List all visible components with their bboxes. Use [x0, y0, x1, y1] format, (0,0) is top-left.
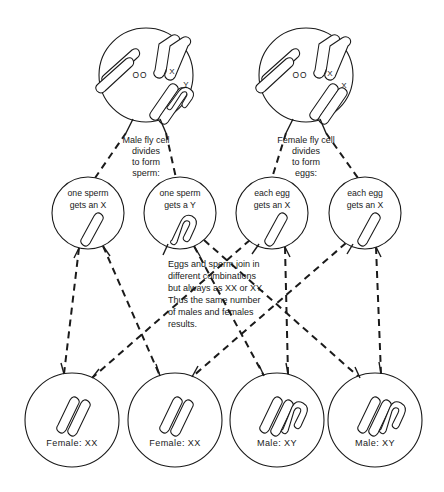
- explanation-line-2: different combinations: [168, 271, 256, 281]
- gamete-egg-x-2-line-2: gets an X: [347, 200, 384, 210]
- explanation-text-block: Eggs and sperm join in different combina…: [168, 259, 263, 329]
- gamete-sperm-y-line-2: gets a Y: [164, 200, 196, 210]
- female-stem-left: [286, 119, 293, 133]
- gamete-sperm-x-line-1: one sperm: [67, 188, 108, 198]
- offspring-cell-4[interactable]: Male: XY: [328, 362, 422, 467]
- offspring-4-label: Male: XY: [355, 438, 395, 448]
- explanation-line-3: but always as XX or XY.: [168, 283, 263, 293]
- gamete-egg-x-2-line-1: each egg: [347, 188, 383, 198]
- gamete-sperm-x-stem-right: [103, 246, 110, 256]
- female-x-mark-1: X: [327, 69, 333, 78]
- gamete-sperm-y-line-1: one sperm: [159, 188, 200, 198]
- offspring-2-label: Female: XX: [149, 438, 201, 448]
- gamete-egg-x-1-line-1: each egg: [254, 188, 290, 198]
- dashed-line-male-to-sperm-x: [95, 133, 126, 178]
- explanation-line-4: Thus the same number: [168, 295, 261, 305]
- male-autosome-label: OO: [132, 70, 147, 80]
- offspring-3-stem-left: [259, 365, 264, 376]
- male-stem-left: [126, 119, 133, 133]
- offspring-1-label: Female: XX: [46, 438, 98, 448]
- female-x-mark-2: X: [341, 81, 347, 90]
- female-autosome-label: OO: [292, 70, 307, 80]
- diagram-canvas: OO X Y Male fly cell divides to form spe…: [0, 0, 444, 492]
- explanation-line-5: of males and females: [168, 307, 254, 317]
- dashed-line-egg1-to-offspring-3: [285, 247, 288, 374]
- male-caption-line-4: sperm:: [132, 168, 160, 178]
- offspring-3-stem-right: [286, 363, 288, 374]
- male-caption-line-1: Male fly cell: [122, 135, 169, 145]
- gamete-cell-sperm-y[interactable]: one sperm gets a Y: [144, 177, 216, 256]
- dashed-line-egg2-to-offspring-4: [376, 247, 381, 374]
- offspring-1-stem-right: [92, 369, 99, 378]
- female-caption-line-1: Female fly cell: [277, 135, 335, 145]
- offspring-cell-3[interactable]: Male: XY: [230, 363, 324, 467]
- female-caption-line-4: eggs:: [295, 168, 317, 178]
- gamete-sperm-y-stem-right: [194, 246, 200, 256]
- gamete-cell-egg-x-2[interactable]: each egg gets an X: [329, 177, 401, 257]
- female-caption-line-3: to form: [292, 157, 320, 167]
- offspring-4-stem-right: [379, 362, 381, 374]
- offspring-cell-1[interactable]: Female: XX: [25, 363, 119, 467]
- offspring-cell-2[interactable]: Female: XX: [128, 364, 222, 467]
- male-y-mark: Y: [183, 80, 189, 89]
- male-caption-line-2: divides: [132, 146, 161, 156]
- explanation-line-6: results.: [168, 319, 197, 329]
- gamete-egg-x-1-line-2: gets an X: [254, 200, 291, 210]
- dashed-line-spermx-to-offspring-2: [103, 246, 160, 376]
- female-parent-cell[interactable]: OO X X Female fly cell divides to form e…: [256, 28, 353, 178]
- dashed-line-spermx-to-offspring-1: [64, 248, 79, 374]
- male-caption-line-3: to form: [132, 157, 160, 167]
- offspring-1-stem-left: [61, 363, 64, 374]
- female-caption-line-2: divides: [292, 146, 321, 156]
- dashed-connector-group: [64, 133, 381, 378]
- gamete-sperm-x-line-2: gets an X: [70, 200, 107, 210]
- genetics-diagram: OO X Y Male fly cell divides to form spe…: [0, 0, 444, 492]
- offspring-3-label: Male: XY: [257, 438, 297, 448]
- offspring-1-outline: [25, 373, 119, 467]
- offspring-2-outline: [128, 373, 222, 467]
- gamete-cell-egg-x-1[interactable]: each egg gets an X: [236, 177, 308, 257]
- gamete-cell-sperm-x[interactable]: one sperm gets an X: [52, 177, 124, 258]
- explanation-line-1: Eggs and sperm join in: [168, 259, 260, 269]
- male-x-mark: X: [169, 67, 175, 76]
